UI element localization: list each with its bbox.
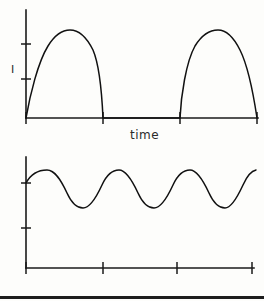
y-axis-label-top: I bbox=[11, 64, 14, 75]
x-axis-label-top: time bbox=[130, 129, 159, 141]
page-bottom-rule bbox=[0, 296, 264, 299]
rectified-current-curve bbox=[26, 30, 257, 118]
chart-panel-top: I time bbox=[0, 0, 264, 150]
waveform-figure: I time I time bbox=[0, 0, 264, 301]
ripple-current-curve bbox=[26, 170, 256, 208]
filtered-waveform-plot bbox=[0, 150, 264, 301]
chart-panel-bottom: I time bbox=[0, 150, 264, 301]
